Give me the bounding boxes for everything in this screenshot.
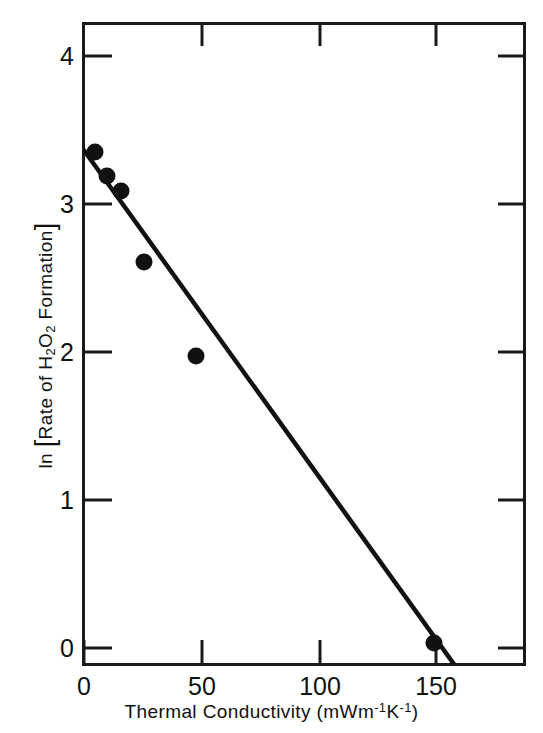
x-axis-title: Thermal Conductivity (mWm-1K-1) bbox=[0, 700, 543, 723]
x-tick-label-100: 100 bbox=[285, 674, 355, 699]
y-axis-title-oxygen: O bbox=[35, 333, 56, 348]
x-axis-title-exponent-2: -1 bbox=[400, 700, 412, 715]
x-axis-title-main: Thermal Conductivity (mWm bbox=[124, 701, 374, 722]
y-axis-title-sub-h2: 2 bbox=[43, 348, 58, 356]
y-axis-title-bracket-open: [ bbox=[30, 439, 60, 447]
y-axis-title-formation: Formation bbox=[35, 230, 56, 325]
x-axis-title-paren-close: ) bbox=[412, 701, 419, 722]
plot-frame bbox=[82, 22, 526, 666]
y-axis-title-sub-o2: 2 bbox=[43, 325, 58, 333]
y-axis-title-bracket-close: ] bbox=[30, 222, 60, 230]
y-axis-title-ln: ln bbox=[35, 453, 56, 469]
x-tick-label-0: 0 bbox=[49, 674, 119, 699]
x-axis-title-exponent-1: -1 bbox=[374, 700, 386, 715]
scatter-plot-figure: 4 3 2 1 0 0 50 100 150 Thermal Conductiv… bbox=[0, 0, 543, 733]
x-tick-label-150: 150 bbox=[401, 674, 471, 699]
x-tick-label-50: 50 bbox=[167, 674, 237, 699]
x-axis-title-kelvin: K bbox=[386, 701, 399, 722]
y-axis-title: ln [Rate of H2O2 Formation] bbox=[30, 46, 61, 646]
y-axis-title-rate: Rate of H bbox=[35, 356, 56, 440]
